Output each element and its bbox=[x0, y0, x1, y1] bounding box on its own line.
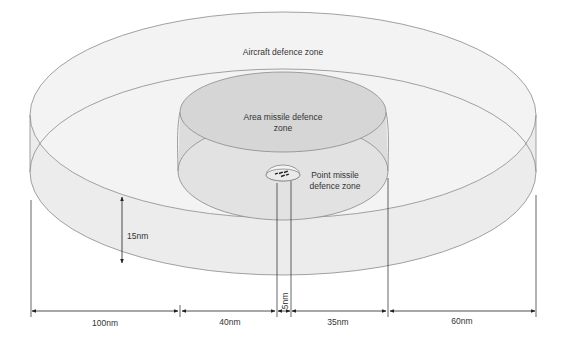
height-label: 15nm bbox=[127, 231, 157, 241]
area-zone-label-line1: Area missile defence bbox=[218, 112, 348, 122]
dimension-label-5nm: 5nm bbox=[280, 286, 290, 316]
dimension-label-40nm: 40nm bbox=[210, 317, 250, 327]
aircraft-zone-label: Aircraft defence zone bbox=[213, 47, 353, 57]
dimension-label-60nm: 60nm bbox=[442, 316, 482, 326]
area-zone-label-line2: zone bbox=[218, 123, 348, 133]
dimension-label-35nm: 35nm bbox=[318, 317, 358, 327]
area-missile-defence-zone bbox=[178, 72, 389, 220]
point-zone-label-line1: Point missile bbox=[295, 170, 375, 180]
point-zone-label-line2: defence zone bbox=[295, 181, 375, 191]
dimension-label-100nm: 100nm bbox=[85, 318, 125, 328]
